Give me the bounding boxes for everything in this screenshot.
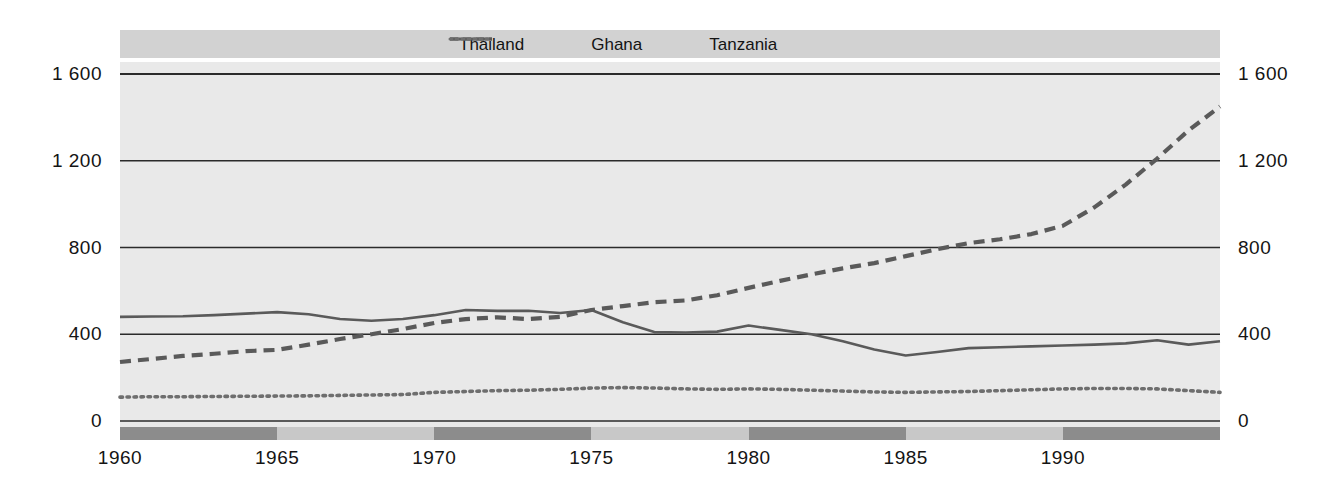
x-band-segment-dark [1063,427,1220,440]
y-tick-label-right: 1 200 [1238,151,1328,170]
y-tick-label-left: 400 [0,324,102,343]
x-band-segment-dark [120,427,277,440]
y-tick-label-left: 1 600 [0,64,102,83]
y-tick-label-right: 400 [1238,324,1328,343]
series-line-thailand [120,107,1220,362]
y-tick-label-left: 0 [0,411,102,430]
x-band-segment-dark [749,427,906,440]
x-tick-label: 1965 [247,448,307,467]
y-tick-label-left: 800 [0,238,102,257]
y-tick-label-right: 0 [1238,411,1328,430]
x-tick-label: 1975 [561,448,621,467]
y-tick-label-right: 800 [1238,238,1328,257]
x-tick-label: 1985 [876,448,936,467]
x-tick-label: 1980 [719,448,779,467]
x-tick-label: 1970 [404,448,464,467]
series-line-tanzania [120,388,1220,398]
x-band-segment-dark [434,427,591,440]
y-tick-label-right: 1 600 [1238,64,1328,83]
plot-svg [0,0,1330,499]
x-tick-label: 1990 [1033,448,1093,467]
x-band-segment-light [591,427,748,440]
x-tick-label: 1960 [90,448,150,467]
x-band-segment-light [277,427,434,440]
line-chart: Thailand Ghana Tanzania 04008001 2001 60… [0,0,1330,499]
y-tick-label-left: 1 200 [0,151,102,170]
x-band-segment-light [906,427,1063,440]
